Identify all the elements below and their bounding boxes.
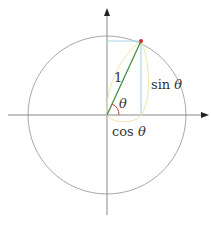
hypotenuse-label: 1 — [114, 70, 122, 85]
x-axis-arrow-icon — [201, 112, 209, 118]
sin-label: sin θ — [151, 77, 182, 92]
y-axis-arrow-icon — [104, 8, 110, 16]
unit-circle-diagram: 1 θ sin θ cos θ — [0, 0, 211, 225]
cosine-brace — [107, 115, 141, 122]
angle-label: θ — [119, 96, 127, 111]
angle-arc — [112, 104, 119, 115]
sine-brace — [141, 41, 149, 115]
cos-label: cos θ — [112, 124, 146, 139]
point-on-circle — [139, 39, 143, 43]
